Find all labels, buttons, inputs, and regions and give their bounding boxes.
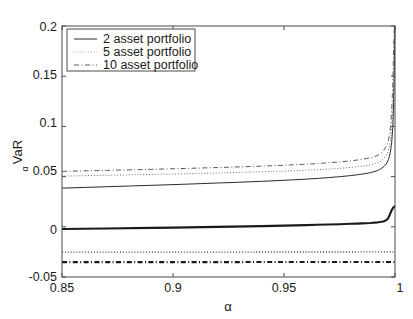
legend-entry-5-asset: 5 asset portfolio (103, 45, 191, 59)
legend-entry-10-asset: 10 asset portfolio (103, 58, 198, 72)
xtick-label-0p9: 0.9 (164, 281, 181, 295)
xtick-label-0p95: 0.95 (272, 281, 296, 295)
ytick-label-0: 0 (50, 223, 57, 237)
var-alpha-line-chart: 0.2 0.15 0.1 0.05 0 -0.05 0.85 0.9 0.95 … (0, 0, 413, 319)
xtick-label-0p85: 0.85 (50, 281, 74, 295)
y-axis-title-group: VaR α (10, 140, 30, 172)
figure-container: 0.2 0.15 0.1 0.05 0 -0.05 0.85 0.9 0.95 … (0, 0, 413, 319)
ytick-label-0p2: 0.2 (40, 20, 57, 34)
ytick-label-0p05: 0.05 (33, 164, 57, 178)
y-axis-title: VaR (10, 140, 25, 164)
x-axis-title: α (224, 299, 232, 314)
legend: 2 asset portfolio 5 asset portfolio 10 a… (67, 29, 198, 72)
ytick-label-0p15: 0.15 (33, 68, 57, 82)
xtick-label-1: 1 (397, 281, 404, 295)
y-axis-title-subscript: α (20, 166, 30, 171)
ytick-label-0p1: 0.1 (40, 116, 57, 130)
legend-entry-2-asset: 2 asset portfolio (103, 32, 191, 46)
